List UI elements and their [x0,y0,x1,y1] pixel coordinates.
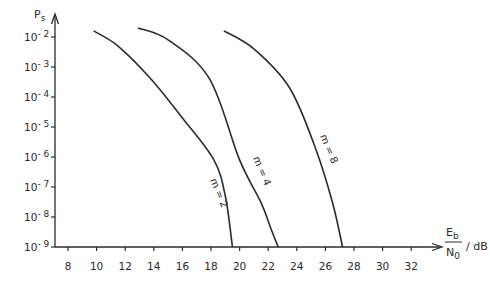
x-tick-label: 24 [290,260,304,272]
svg-text:/ dB: / dB [466,240,488,253]
x-tick-label: 26 [319,260,333,272]
y-tick-label: 10- 7 [24,179,49,193]
y-axis [52,14,59,247]
svg-text:Eb: Eb [446,226,459,241]
y-tick-label: 10- 3 [24,59,49,73]
x-tick-label: 32 [405,260,418,272]
x-tick-label: 16 [176,260,190,272]
x-tick-label: 18 [204,260,217,272]
y-tick-label: 10- 5 [24,119,49,133]
x-tick-label: 30 [376,260,389,272]
x-tick-label: 28 [347,260,360,272]
y-tick-label: 10- 8 [24,209,49,223]
y-tick-label: 10- 6 [24,149,49,163]
x-tick-label: 20 [233,260,246,272]
svg-text:N0: N0 [446,246,460,261]
x-axis [55,244,442,251]
y-tick-labels: 10- 210- 310- 410- 510- 610- 710- 810- 9 [24,29,55,253]
ser-vs-snr-chart: 10- 210- 310- 410- 510- 610- 710- 810- 9… [0,0,490,285]
x-axis-label: Eb N0 / dB [445,226,488,261]
x-tick-label: 10 [90,260,103,272]
y-tick-label: 10- 2 [24,29,49,43]
x-tick-label: 12 [119,260,132,272]
x-tick-labels: 8101214161820222426283032 [65,247,418,272]
curve-m4 [138,28,278,247]
curve-label: m = 2 [208,176,230,209]
curve-label: m = 4 [251,154,273,187]
x-tick-label: 22 [262,260,275,272]
curve-label: m = 8 [318,132,340,165]
y-tick-label: 10- 4 [24,89,49,103]
x-tick-label: 14 [147,260,161,272]
x-tick-label: 8 [65,260,72,272]
curves: m = 2m = 4m = 8 [94,28,343,247]
y-axis-label: Ps [34,8,46,23]
y-tick-label: 10- 9 [24,239,49,253]
curve-m2 [94,31,233,247]
